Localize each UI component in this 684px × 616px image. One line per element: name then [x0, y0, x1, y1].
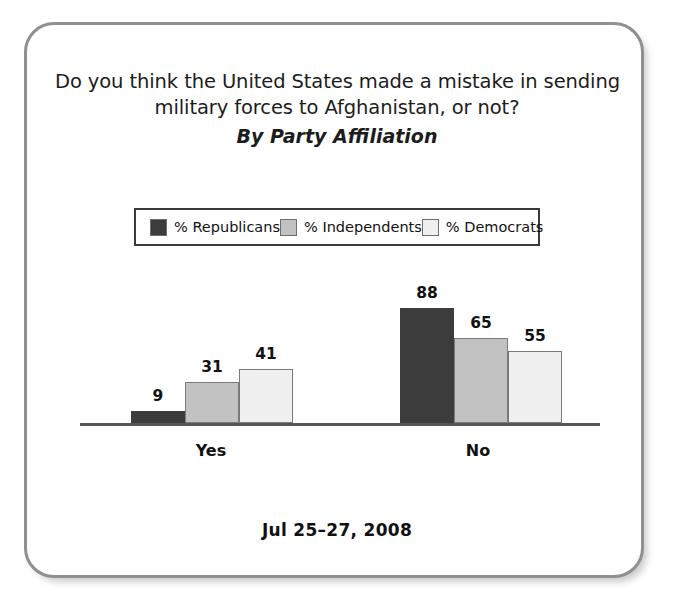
chart-title-line-1: Do you think the United States made a mi…	[55, 69, 619, 95]
survey-date-footer: Jul 25–27, 2008	[55, 520, 619, 540]
legend-swatch-democrats	[422, 219, 439, 236]
legend-label-republicans: % Republicans	[174, 219, 280, 235]
legend-item-independents: % Independents	[280, 219, 422, 236]
legend-item-republicans: % Republicans	[150, 219, 280, 236]
legend-swatch-independents	[280, 219, 297, 236]
legend-swatch-republicans	[150, 219, 167, 236]
chart-title-line-2: military forces to Afghanistan, or not?	[55, 95, 619, 121]
legend-label-independents: % Independents	[304, 219, 422, 235]
legend-item-democrats: % Democrats	[422, 219, 544, 236]
chart-card: Do you think the United States made a mi…	[24, 22, 644, 578]
chart-legend: % Republicans % Independents % Democrats	[134, 208, 540, 246]
chart-title-block: Do you think the United States made a mi…	[55, 69, 619, 150]
legend-label-democrats: % Democrats	[446, 219, 544, 235]
chart-subtitle: By Party Affiliation	[55, 122, 619, 150]
